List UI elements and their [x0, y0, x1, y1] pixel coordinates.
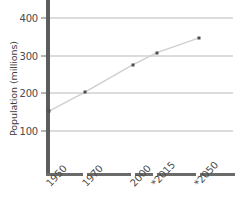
gridline-300	[50, 55, 233, 56]
gridline-200	[50, 93, 233, 94]
gridline-400	[50, 18, 233, 19]
data-point-2015	[156, 51, 159, 54]
y-axis-title: Population (millions)	[8, 24, 19, 154]
data-point-2050	[198, 36, 201, 39]
population-series-line	[49, 38, 199, 111]
y-axis-line	[46, 0, 50, 176]
population-line-chart: 400 300 200 100 Population (millions) 19…	[0, 0, 235, 218]
data-point-1950	[48, 110, 51, 113]
data-point-2000	[132, 63, 135, 66]
y-tick-label-400: 400	[8, 13, 38, 24]
data-point-1970	[84, 91, 87, 94]
gridline-100	[50, 130, 233, 131]
